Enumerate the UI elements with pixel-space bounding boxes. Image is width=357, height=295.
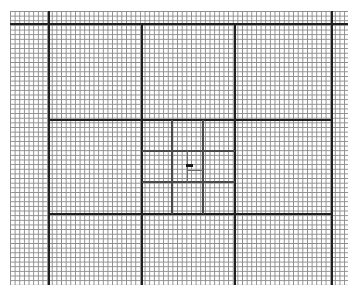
center-mark bbox=[186, 164, 193, 167]
minor-grid bbox=[10, 11, 348, 285]
graph-paper-sheet bbox=[0, 0, 357, 295]
